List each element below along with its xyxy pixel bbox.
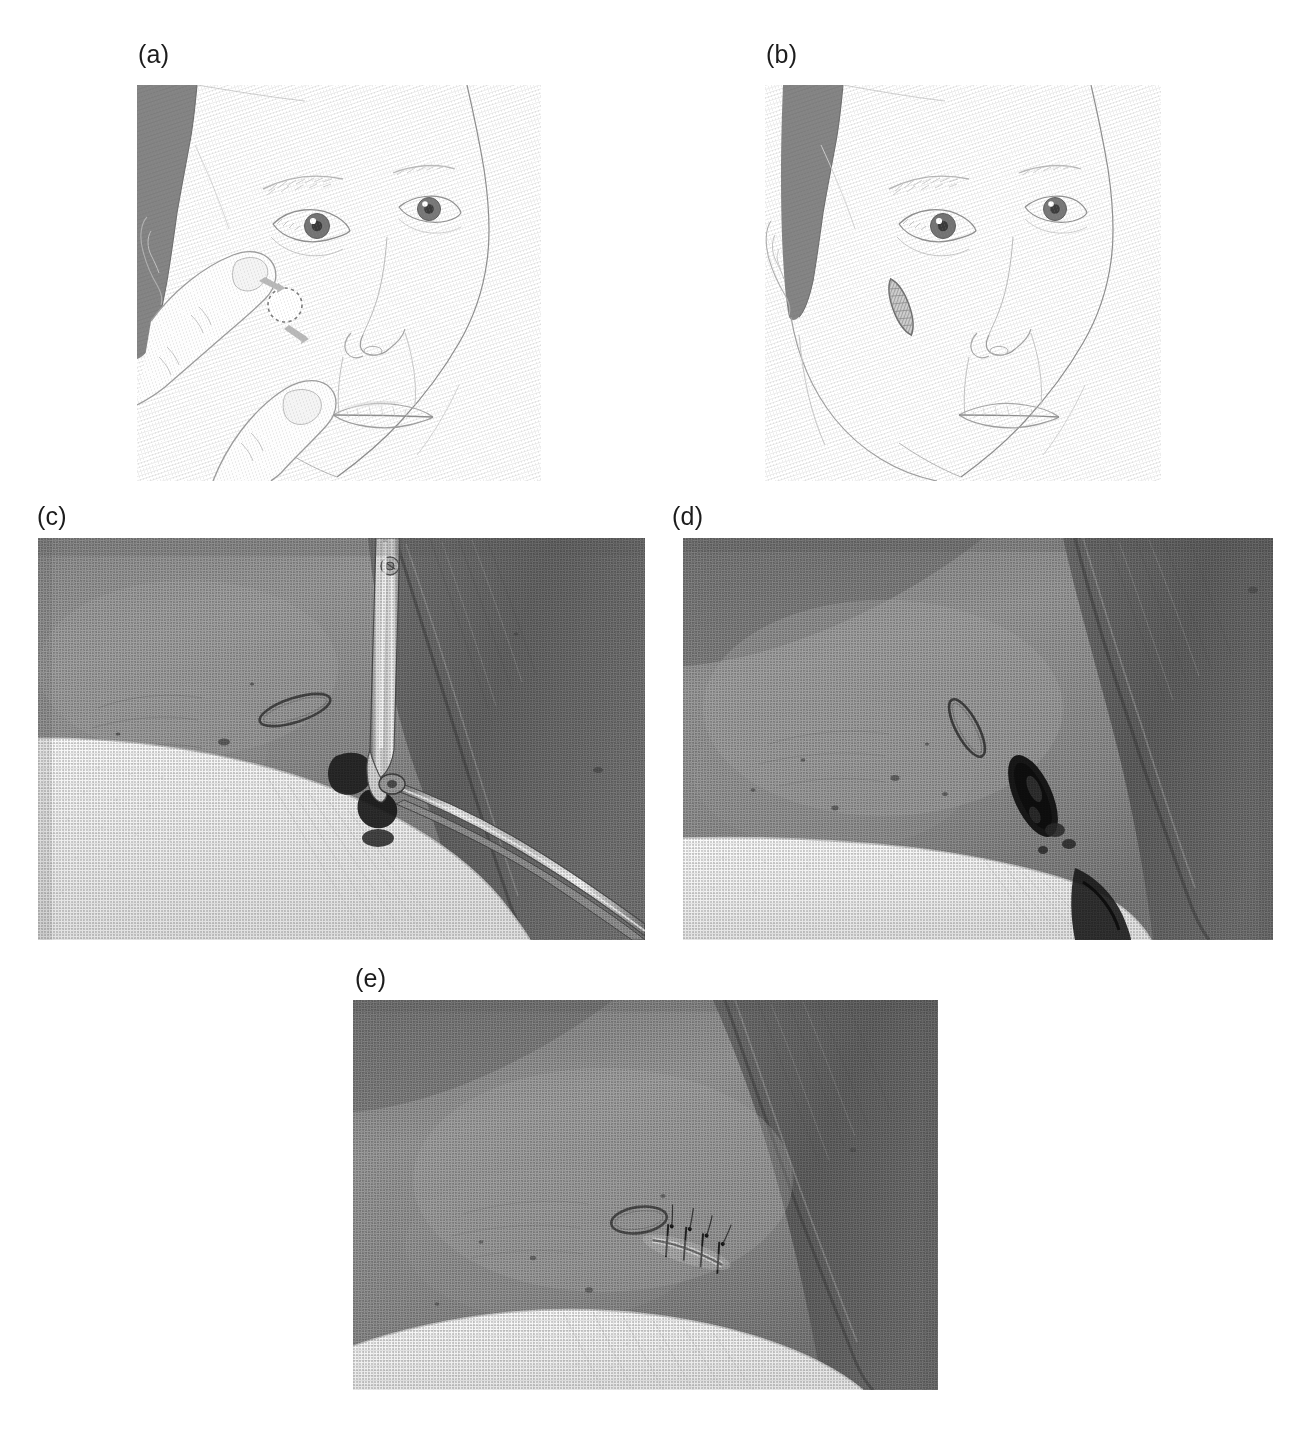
panel-label-b: (b) (766, 42, 797, 67)
panel-label-a: (a) (138, 42, 169, 67)
panel-label-c: (c) (37, 504, 67, 529)
panel-b-illustration (765, 85, 1161, 481)
figure-root: (a) (0, 0, 1302, 1444)
lesion-dashed-circle (268, 288, 302, 322)
face-excision-illustration (765, 85, 1161, 481)
panel-d-photograph (683, 538, 1273, 940)
face-stretch-illustration (137, 85, 541, 481)
panel-label-d: (d) (672, 504, 703, 529)
panel-e-photograph (353, 1000, 938, 1390)
photo-open-defect (683, 538, 1273, 940)
panel-c-photograph (38, 538, 645, 940)
panel-label-e: (e) (355, 966, 386, 991)
panel-a-illustration (137, 85, 541, 481)
photo-sutured-wound (353, 1000, 938, 1390)
photo-excision-in-progress (38, 538, 645, 940)
